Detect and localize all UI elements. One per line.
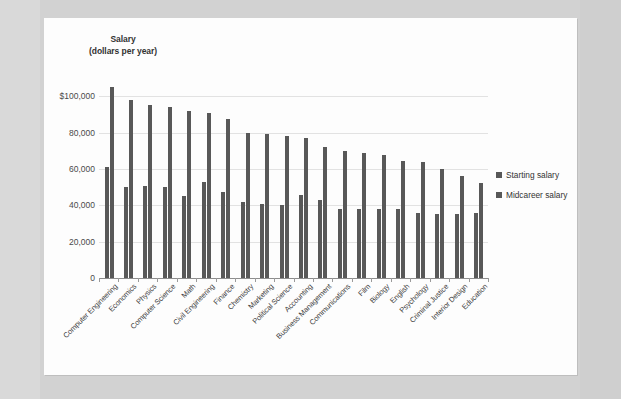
legend-label: Midcareer salary — [506, 190, 567, 200]
plot-area — [99, 78, 488, 278]
bar-midcareer-salary — [304, 138, 308, 278]
bar-group — [318, 78, 328, 278]
bar-midcareer-salary — [187, 111, 191, 278]
chart-card: Salary (dollars per year) $100,00080,000… — [44, 18, 577, 375]
bar-group — [377, 78, 387, 278]
bar-starting-salary — [396, 209, 400, 278]
bar-midcareer-salary — [440, 169, 444, 278]
bar-starting-salary — [241, 202, 245, 278]
bar-starting-salary — [299, 195, 303, 278]
bar-midcareer-salary — [460, 176, 464, 278]
gridline — [99, 96, 488, 97]
bar-starting-salary — [124, 187, 128, 278]
bar-midcareer-salary — [246, 133, 250, 278]
salary-bar-chart: Salary (dollars per year) $100,00080,000… — [44, 18, 577, 375]
bar-starting-salary — [474, 213, 478, 278]
bar-starting-salary — [435, 214, 439, 278]
bar-starting-salary — [455, 214, 459, 278]
bar-group — [260, 78, 270, 278]
bar-starting-salary — [357, 209, 361, 278]
bar-starting-salary — [416, 213, 420, 278]
bar-group — [338, 78, 348, 278]
x-axis-category-labels: Computer EngineeringEconomicsPhysicsComp… — [99, 280, 519, 375]
bar-midcareer-salary — [129, 100, 133, 278]
x-axis-category-label: Biology — [368, 282, 391, 305]
bar-starting-salary — [318, 200, 322, 278]
bar-midcareer-salary — [285, 136, 289, 278]
y-axis-tick-label: $100,000 — [43, 91, 95, 101]
bar-starting-salary — [143, 186, 147, 278]
legend-item: Starting salary — [496, 170, 581, 180]
legend-color-swatch — [496, 192, 502, 198]
gridline — [99, 133, 488, 134]
bar-group — [435, 78, 445, 278]
bar-group — [416, 78, 426, 278]
bar-group — [280, 78, 290, 278]
bar-starting-salary — [182, 196, 186, 278]
y-axis-tick-labels: $100,00080,00060,00040,00020,0000 — [44, 18, 95, 375]
y-axis-tick-label: 80,000 — [43, 128, 95, 138]
bar-group — [357, 78, 367, 278]
bar-starting-salary — [260, 204, 264, 278]
gridline — [99, 169, 488, 170]
bar-starting-salary — [163, 187, 167, 278]
bar-midcareer-salary — [401, 161, 405, 278]
y-axis-tick-label: 60,000 — [43, 164, 95, 174]
bar-midcareer-salary — [265, 134, 269, 278]
bar-starting-salary — [338, 209, 342, 278]
bar-starting-salary — [377, 209, 381, 278]
bar-midcareer-salary — [168, 107, 172, 278]
bar-group — [163, 78, 173, 278]
bar-midcareer-salary — [323, 147, 327, 278]
gridline — [99, 242, 488, 243]
bar-midcareer-salary — [110, 87, 114, 278]
bar-group — [396, 78, 406, 278]
bar-group — [241, 78, 251, 278]
bar-midcareer-salary — [382, 155, 386, 278]
y-axis-tick-label: 0 — [43, 273, 95, 283]
bar-midcareer-salary — [362, 153, 366, 278]
bar-midcareer-salary — [148, 105, 152, 278]
bar-starting-salary — [280, 205, 284, 278]
legend-item: Midcareer salary — [496, 190, 581, 200]
bar-starting-salary — [202, 182, 206, 278]
bar-starting-salary — [221, 192, 225, 278]
legend-color-swatch — [496, 172, 502, 178]
y-axis-tick-label: 20,000 — [43, 237, 95, 247]
bar-midcareer-salary — [343, 151, 347, 278]
bar-midcareer-salary — [226, 119, 230, 278]
bar-group — [105, 78, 115, 278]
bar-midcareer-salary — [421, 162, 425, 278]
bar-midcareer-salary — [207, 113, 211, 278]
bar-group — [455, 78, 465, 278]
bar-group — [299, 78, 309, 278]
chart-legend: Starting salaryMidcareer salary — [496, 170, 581, 210]
bar-group — [221, 78, 231, 278]
bar-group — [124, 78, 134, 278]
gridline — [99, 205, 488, 206]
bar-group — [474, 78, 484, 278]
bar-group — [143, 78, 153, 278]
legend-label: Starting salary — [506, 170, 559, 180]
bar-starting-salary — [105, 167, 109, 278]
bar-group — [182, 78, 192, 278]
bar-group — [202, 78, 212, 278]
y-axis-tick-label: 40,000 — [43, 200, 95, 210]
bar-midcareer-salary — [479, 183, 483, 278]
